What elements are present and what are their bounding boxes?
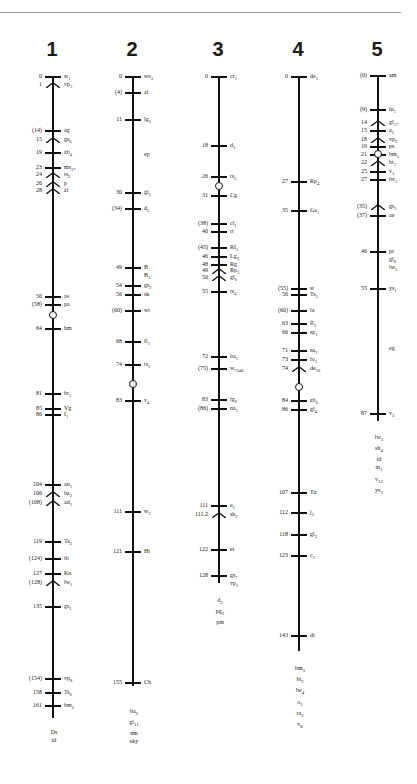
locus-gene: ys1 bbox=[389, 285, 397, 293]
locus-gene: eg bbox=[389, 345, 395, 351]
locus-position: 118 bbox=[262, 531, 288, 537]
locus-tick bbox=[370, 251, 386, 253]
locus-position: 18 bbox=[182, 142, 208, 148]
unplaced-gene: d2 bbox=[190, 596, 250, 607]
locus-tick bbox=[291, 310, 307, 312]
locus-position: 22 bbox=[341, 159, 367, 165]
locus-gene: ag bbox=[64, 127, 70, 133]
locus-tick bbox=[45, 328, 61, 330]
unplaced-gene: o1 bbox=[270, 698, 330, 709]
locus-tick bbox=[211, 231, 227, 233]
locus-gene: ad1 bbox=[64, 499, 72, 507]
locus-gene: Cg bbox=[230, 192, 237, 198]
chromosome-2: 20ws3(4)al11lg1ep30gl2(34)d549BB254gs256… bbox=[92, 0, 172, 784]
locus-tick bbox=[125, 682, 141, 684]
locus-tick bbox=[370, 75, 386, 77]
centromere-icon bbox=[374, 150, 382, 158]
locus-position: 19 bbox=[16, 149, 42, 155]
locus-gene: Ts3 bbox=[64, 538, 72, 546]
locus-position: 25 bbox=[341, 168, 367, 174]
chevron-marker-icon bbox=[46, 137, 60, 143]
locus-tick bbox=[125, 511, 141, 513]
locus-position: 104 bbox=[16, 481, 42, 487]
locus-position: 19 bbox=[341, 143, 367, 149]
locus-tick bbox=[370, 215, 386, 217]
locus-gene: ts1 bbox=[144, 361, 150, 369]
locus-tick bbox=[45, 304, 61, 306]
locus-position: (75) bbox=[182, 365, 208, 371]
locus-position: 56 bbox=[16, 293, 42, 299]
locus-gene: Ch bbox=[144, 679, 151, 685]
locus-gene: p bbox=[64, 180, 67, 186]
locus-gene: f1 bbox=[64, 411, 68, 419]
locus-tick bbox=[45, 541, 61, 543]
locus-position: (45) bbox=[182, 244, 208, 250]
locus-position: (58) bbox=[16, 301, 42, 307]
chevron-marker-icon bbox=[371, 160, 385, 166]
locus-tick bbox=[125, 400, 141, 402]
locus-position: (128) bbox=[16, 579, 42, 585]
locus-tick bbox=[291, 534, 307, 536]
locus-tick bbox=[211, 291, 227, 293]
locus-gene: ps bbox=[389, 143, 394, 149]
locus-gene: ae bbox=[389, 212, 394, 218]
locus-position: (9) bbox=[341, 106, 367, 112]
locus-position: (60) bbox=[262, 307, 288, 313]
locus-position: 0 bbox=[182, 73, 208, 79]
locus-gene: wt bbox=[144, 307, 150, 313]
locus-gene: c2 bbox=[310, 552, 315, 560]
chromosome-1: 10sr11vp5(14)ag15gs619zb423ms1724ts226p2… bbox=[12, 0, 92, 784]
locus-position: 158 bbox=[16, 689, 42, 695]
locus-position: 46 bbox=[341, 248, 367, 254]
locus-gene: fl2 bbox=[310, 320, 316, 328]
locus-gene: Lg3 bbox=[230, 253, 239, 261]
locus-gene: Ts6 bbox=[64, 689, 72, 697]
locus-gene: gl3 bbox=[310, 531, 317, 539]
locus-position: 15 bbox=[16, 136, 42, 142]
locus-gene: zb6 bbox=[310, 397, 318, 405]
locus-tick bbox=[211, 549, 227, 551]
locus-tick bbox=[45, 414, 61, 416]
locus-gene: Rf1 bbox=[230, 244, 238, 252]
locus-gene: zl bbox=[64, 187, 68, 193]
chromosome-title: 4 bbox=[258, 38, 338, 61]
locus-position: 127 bbox=[16, 570, 42, 576]
locus-gene: lo1 bbox=[310, 356, 317, 364]
locus-gene: gs2 bbox=[389, 203, 397, 211]
locus-position: 35 bbox=[262, 207, 288, 213]
locus-gene: gl8 bbox=[389, 256, 396, 264]
locus-tick bbox=[370, 179, 386, 181]
locus-gene: sk bbox=[144, 291, 149, 297]
locus-tick bbox=[45, 408, 61, 410]
unplaced-gene: ys1 bbox=[349, 486, 409, 497]
unplaced-gene: gl11 bbox=[104, 718, 164, 729]
locus-tick bbox=[125, 294, 141, 296]
locus-gene: ts2 bbox=[230, 173, 236, 181]
locus-gene: gs1 bbox=[64, 603, 72, 611]
locus-gene: sr1 bbox=[64, 73, 71, 81]
locus-position: 30 bbox=[96, 189, 122, 195]
locus-gene: Rp4 bbox=[310, 178, 319, 186]
locus-tick bbox=[211, 575, 227, 577]
locus-gene: gs6 bbox=[64, 136, 72, 144]
chevron-marker-icon bbox=[292, 366, 306, 372]
locus-gene: B2 bbox=[144, 272, 150, 280]
locus-gene: Ht bbox=[144, 548, 150, 554]
locus-tick bbox=[45, 573, 61, 575]
chevron-marker-icon bbox=[212, 275, 226, 281]
locus-gene: j2 bbox=[310, 509, 314, 517]
locus-position: 15 bbox=[341, 127, 367, 133]
locus-position: 28 bbox=[16, 187, 42, 193]
locus-gene: a2 bbox=[389, 127, 394, 135]
chromosome-axis bbox=[377, 75, 379, 421]
locus-tick bbox=[291, 288, 307, 290]
locus-gene: gl6 bbox=[230, 274, 237, 282]
locus-gene: gs2 bbox=[144, 282, 152, 290]
locus-gene: lg2 bbox=[230, 396, 237, 404]
unplaced-gene: ra3 bbox=[270, 709, 330, 720]
locus-tick bbox=[125, 364, 141, 366]
locus-tick bbox=[291, 181, 307, 183]
locus-position: (86) bbox=[182, 405, 208, 411]
unplaced-gene: bm3 bbox=[270, 664, 330, 675]
locus-position: 49 bbox=[182, 267, 208, 273]
